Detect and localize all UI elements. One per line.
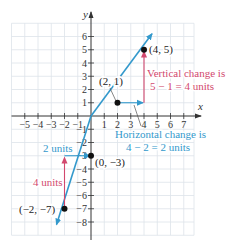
- svg-text:3: 3: [82, 71, 87, 82]
- horizontal-change-text-2: 4 − 2 = 2 units: [126, 141, 190, 153]
- point-2-1: [115, 100, 121, 106]
- point-0-neg3: [88, 153, 94, 159]
- two-units-text: 2 units: [43, 142, 73, 154]
- horizontal-change-text-1: Horizontal change is: [115, 128, 206, 140]
- svg-text:1: 1: [102, 119, 107, 130]
- label-neg2-neg7: (−2, −7): [19, 203, 56, 216]
- svg-text:−4: −4: [76, 164, 87, 175]
- svg-text:−2: −2: [59, 119, 70, 130]
- x-axis-label: x: [197, 100, 203, 112]
- svg-text:−8: −8: [76, 217, 87, 228]
- svg-text:−4: −4: [33, 119, 44, 130]
- y-axis-label: y: [82, 8, 88, 20]
- svg-text:6: 6: [82, 31, 87, 42]
- label-4-5: (4, 5): [149, 43, 173, 56]
- point-4-5: [141, 47, 147, 53]
- label-2-1: (2, 1): [99, 75, 123, 88]
- svg-text:5: 5: [82, 44, 87, 55]
- point-neg2-neg7: [62, 206, 68, 212]
- svg-text:1: 1: [82, 97, 87, 108]
- svg-text:−5: −5: [19, 119, 30, 130]
- svg-text:4: 4: [82, 58, 87, 69]
- svg-text:2: 2: [82, 84, 87, 95]
- svg-text:−5: −5: [76, 177, 87, 188]
- vertical-change-text-2: 5 − 1 = 4 units: [150, 80, 214, 92]
- svg-text:−7: −7: [76, 203, 87, 214]
- svg-text:−3: −3: [46, 119, 57, 130]
- vertical-change-text-1: Vertical change is: [147, 67, 225, 79]
- four-units-text: 4 units: [33, 176, 63, 188]
- svg-text:−6: −6: [76, 190, 87, 201]
- coordinate-graph: x y −5 −4 −3 −2 −1 1 2 3 4 5 6 7: [0, 0, 235, 247]
- label-0-neg3: (0, −3): [95, 156, 125, 169]
